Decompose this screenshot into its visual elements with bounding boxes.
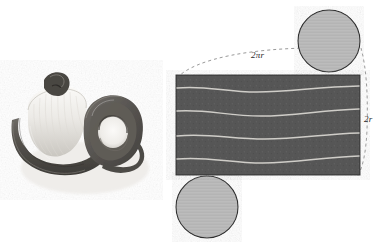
photograph-canvas xyxy=(0,60,170,200)
top-circle-cap xyxy=(298,10,360,72)
circumference-label: 2πr xyxy=(251,50,264,60)
bottom-circle-cap xyxy=(176,176,238,238)
clip-body xyxy=(44,72,70,96)
figure-root: 2πr 2r xyxy=(0,0,385,248)
unrolled-cylinder-diagram xyxy=(165,0,385,248)
diameter-label: 2r xyxy=(364,114,372,124)
diagram-canvas xyxy=(165,0,385,248)
lateral-surface-rectangle xyxy=(176,75,360,175)
rolled-strip-photograph xyxy=(0,60,170,200)
rectangle-body xyxy=(176,75,360,175)
strip-end-clip xyxy=(44,72,70,96)
